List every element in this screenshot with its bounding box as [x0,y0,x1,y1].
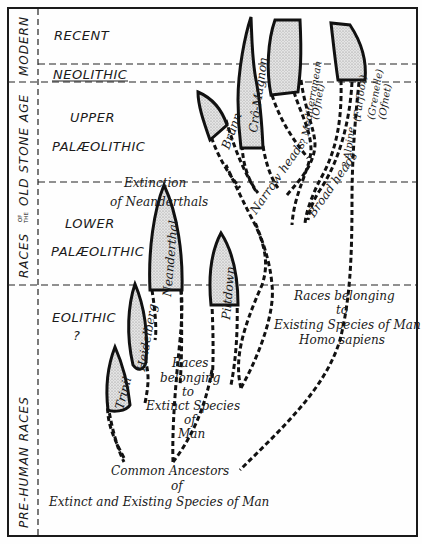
note-extinct-line2: belonging [160,371,221,385]
side-label-modern: MODERN [17,16,31,76]
label-narrow-heads: Narrow heads [246,138,308,218]
note-existing-line2: to [336,303,348,317]
note-common-line1: Common Ancestors [111,464,229,478]
note-existing-line1: Races belonging [293,289,395,303]
era-lower-1: LOWER [65,216,115,231]
note-extinct-line3: to [182,385,194,399]
note-extinction-line1: Extinction [123,176,186,190]
era-lower-2: PALÆOLITHIC [51,244,145,259]
side-label-races: RACES [17,233,31,278]
note-existing-line4: Homo sapiens [298,333,385,347]
era-upper-2: PALÆOLITHIC [52,139,146,154]
note-extinct-line6: Man [177,427,205,441]
note-extinct-line4: Extinct Species [145,399,240,413]
human-evolution-diagram: MODERN RACES OF THE OLD STONE AGE PRE-HU… [0,0,422,544]
side-label-old-stone-age-text: OLD STONE AGE [17,94,31,206]
era-eolithic: EOLITHIC [52,310,117,325]
era-eolithic-question: ? [73,328,80,343]
leaf-mediterranean [268,20,301,95]
leaf-alpine-grenelle [331,23,365,80]
note-extinction-line2: of Neanderthals [110,195,208,209]
side-label-the: THE [23,212,29,224]
note-common-line2: of [171,479,185,493]
branch-common-left [108,405,124,462]
era-upper-1: UPPER [70,110,115,125]
side-label-old-stone-age: RACES OF THE OLD STONE AGE [17,94,31,278]
era-recent: RECENT [54,28,110,43]
note-common-line3: Extinct and Existing Species of Man [48,495,269,509]
side-label-pre-human: PRE-HUMAN RACES [17,396,31,528]
branch-narrow-loop-right [241,222,272,388]
note-existing-line3: Existing Species of Man [273,318,421,332]
note-extinct-line1: Races [171,356,208,370]
era-neolithic: NEOLITHIC [53,67,128,82]
